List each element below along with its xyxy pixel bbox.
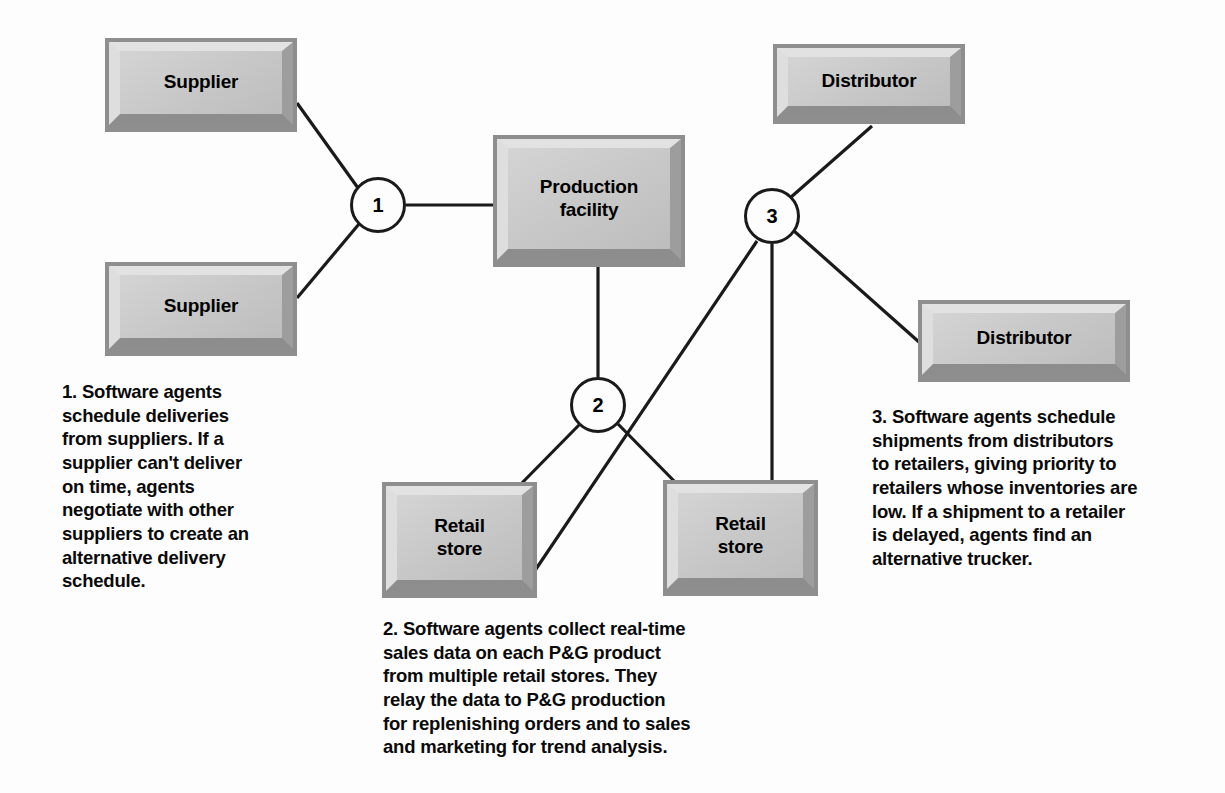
node-bevel: Distributor (922, 304, 1126, 375)
node-label: Production facility (540, 176, 638, 221)
step-marker-label: 1 (372, 195, 383, 215)
node-supplier-bottom[interactable]: Supplier (105, 262, 297, 356)
node-bevel: Supplier (109, 266, 293, 349)
node-supplier-top[interactable]: Supplier (105, 38, 297, 132)
node-retail-store-right[interactable]: Retail store (663, 480, 818, 596)
diagram-canvas: SupplierSupplierProduction facilityDistr… (0, 0, 1225, 793)
step-marker-label: 2 (592, 395, 603, 415)
step-marker-2[interactable]: 2 (570, 377, 626, 433)
node-label: Supplier (164, 295, 238, 317)
node-label: Retail store (715, 513, 766, 558)
node-bevel: Production facility (497, 139, 681, 260)
connector-edge-supplier-top-to-1 (297, 103, 358, 188)
node-distributor-top[interactable]: Distributor (773, 44, 965, 124)
node-bevel: Distributor (777, 48, 961, 117)
node-bevel: Retail store (386, 486, 533, 591)
node-production-facility[interactable]: Production facility (493, 135, 685, 267)
step-marker-label: 3 (766, 206, 777, 226)
connector-edge-3-to-distributor-top (790, 126, 872, 198)
node-label: Retail store (434, 515, 485, 560)
node-bevel: Supplier (109, 42, 293, 125)
node-label: Distributor (822, 70, 917, 92)
caption-step-2: 2. Software agents collect real-time sal… (383, 617, 803, 759)
node-label: Supplier (164, 71, 238, 93)
step-marker-3[interactable]: 3 (744, 188, 800, 244)
node-label: Distributor (977, 327, 1072, 349)
node-retail-store-left[interactable]: Retail store (382, 482, 537, 598)
caption-step-1: 1. Software agents schedule deliveries f… (62, 380, 312, 593)
connector-edge-2-to-retail-left (518, 425, 579, 487)
node-distributor-bottom[interactable]: Distributor (918, 300, 1130, 382)
node-bevel: Retail store (667, 484, 814, 589)
connector-edge-supplier-bottom-to-1 (297, 224, 359, 298)
connector-edge-3-to-distributor-bottom (794, 231, 928, 350)
step-marker-1[interactable]: 1 (350, 177, 406, 233)
caption-step-3: 3. Software agents schedule shipments fr… (872, 405, 1162, 571)
